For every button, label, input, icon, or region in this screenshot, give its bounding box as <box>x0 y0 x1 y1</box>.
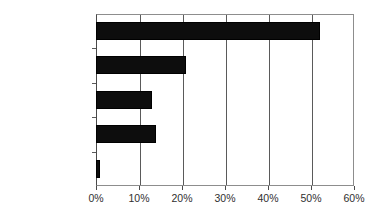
x-axis-label: 40% <box>246 192 290 204</box>
y-axis-tick <box>92 152 96 153</box>
x-axis-label: 30% <box>203 192 247 204</box>
y-axis-tick <box>92 117 96 118</box>
x-axis-tick <box>139 186 140 190</box>
x-axis-tick <box>225 186 226 190</box>
bar <box>96 22 320 40</box>
bar <box>96 160 100 178</box>
x-axis-label: 20% <box>160 192 204 204</box>
x-axis-label: 60% <box>332 192 373 204</box>
x-axis-tick <box>354 186 355 190</box>
y-axis-tick <box>92 48 96 49</box>
bar <box>96 125 156 143</box>
x-axis-tick <box>268 186 269 190</box>
x-axis-tick <box>182 186 183 190</box>
y-axis-tick <box>92 83 96 84</box>
bar-row <box>96 48 354 82</box>
x-axis-label: 0% <box>74 192 118 204</box>
x-axis-label: 10% <box>117 192 161 204</box>
bar <box>96 56 186 74</box>
bar-row <box>96 14 354 48</box>
bar-row <box>96 117 354 151</box>
bar-chart-figure: Regular (52%)Flextime 21%)CWW (13%)Other… <box>0 0 373 219</box>
bar-row <box>96 152 354 186</box>
x-axis-tick <box>311 186 312 190</box>
bar <box>96 91 152 109</box>
bar-row <box>96 83 354 117</box>
x-axis-label: 50% <box>289 192 333 204</box>
x-axis-tick <box>96 186 97 190</box>
